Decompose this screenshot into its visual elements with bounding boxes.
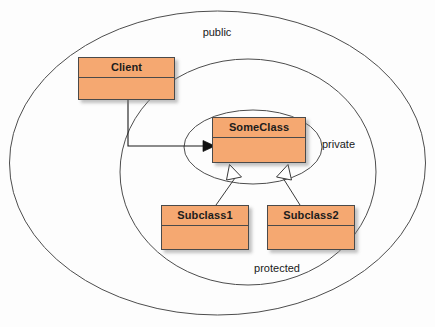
generalization-line-subclass1	[216, 178, 235, 205]
scope-label-protected: protected	[254, 262, 300, 274]
generalization-arrowhead-subclass1	[227, 165, 242, 181]
class-box-subclass1[interactable]: Subclass1	[161, 205, 249, 250]
uml-diagram-canvas: public protected private Client SomeClas…	[0, 0, 435, 327]
class-box-subclass2[interactable]: Subclass2	[267, 205, 355, 250]
class-title-subclass2: Subclass2	[268, 206, 354, 226]
generalization-arrowhead-subclass2	[277, 165, 292, 181]
scope-label-private: private	[322, 138, 355, 150]
class-body-client	[79, 78, 174, 100]
class-title-someclass: SomeClass	[213, 118, 305, 138]
class-body-subclass1	[162, 226, 248, 250]
class-title-subclass1: Subclass1	[162, 206, 248, 226]
class-box-client[interactable]: Client	[78, 57, 175, 100]
scope-label-public: public	[203, 26, 232, 38]
class-body-subclass2	[268, 226, 354, 250]
class-title-client: Client	[79, 58, 174, 78]
class-body-someclass	[213, 138, 305, 163]
scope-ellipse-public	[10, 11, 426, 315]
dependency-line-client-someclass	[128, 100, 203, 146]
class-box-someclass[interactable]: SomeClass	[212, 117, 306, 163]
diagram-vector-layer: public protected private	[0, 0, 435, 327]
generalization-line-subclass2	[283, 178, 300, 205]
